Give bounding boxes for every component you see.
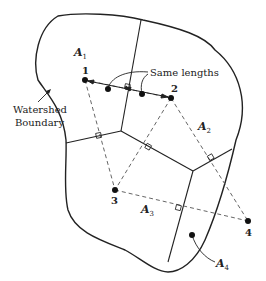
area-a3-label: A3 [140,203,154,218]
gauge-2-label: 2 [171,83,178,94]
area-a2-label: A2 [197,120,211,135]
area-a1-label: A1 [73,46,87,61]
area-a4-label: A4 [215,257,230,272]
a4-leader [192,235,215,262]
gauge-4-label: 4 [245,227,252,238]
thiessen-diagram: 1 2 3 4 A1 A2 A3 A4 Same lengths Watersh… [0,0,266,281]
gauge-connectors [85,80,248,221]
a4-dot [189,232,195,238]
midpoint-dot-b [139,91,145,97]
gauge-1-dot [82,77,88,83]
gauge-1-label: 1 [82,65,89,76]
gauge-4-dot [245,218,251,224]
gauge-3-dot [112,187,118,193]
gauge-3-label: 3 [111,195,118,206]
gauge-points [82,77,251,238]
midpoint-dot-a [105,86,111,92]
watershed-label-line2: Boundary [15,117,64,128]
polygon-edges [66,20,232,262]
gauge-2-dot [168,95,174,101]
same-lengths-label: Same lengths [150,67,219,78]
watershed-label-line1: Watershed [13,104,68,115]
